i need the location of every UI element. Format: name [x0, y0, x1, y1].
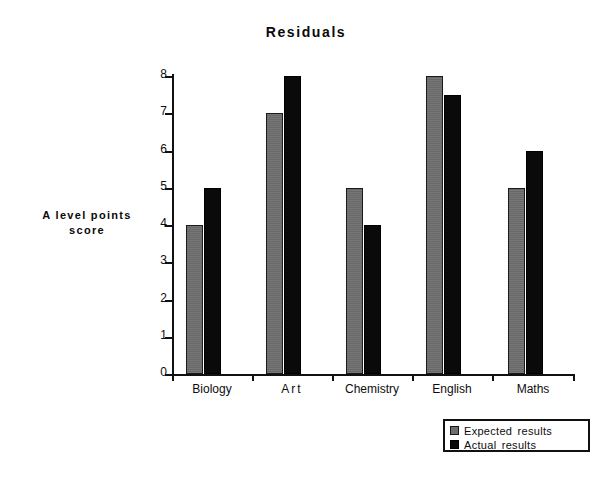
- x-tick-end: [573, 374, 575, 381]
- chart-figure: Residuals A level points score 8 7 6 5 4: [0, 0, 604, 477]
- x-axis-line: [172, 374, 575, 376]
- x-tick-start: [172, 374, 174, 381]
- bar-group-chemistry: [346, 76, 381, 374]
- y-axis-title-line-2: score: [12, 223, 162, 238]
- legend-label-actual: Actual results: [464, 439, 536, 451]
- plot-area: 8 7 6 5 4 3 2 1: [172, 76, 573, 374]
- chart-title-text: Residuals: [266, 24, 347, 40]
- y-tick-label: 7: [160, 105, 167, 117]
- bar-group-biology: [186, 76, 221, 374]
- bar-group-art: [266, 76, 301, 374]
- x-axis-label-maths: Maths: [493, 382, 573, 396]
- x-axis-label-chemistry: Chemistry: [332, 382, 412, 396]
- legend-swatch-grey-icon: [450, 426, 459, 435]
- y-tick-label: 6: [160, 143, 167, 155]
- y-tick-label: 1: [160, 329, 167, 341]
- x-tick-1: [252, 374, 254, 381]
- y-axis-title: A level points score: [12, 208, 162, 238]
- y-tick-label: 2: [160, 292, 167, 304]
- x-tick-2: [332, 374, 334, 381]
- bar-expected-chemistry[interactable]: [346, 188, 363, 374]
- bar-actual-chemistry[interactable]: [364, 225, 381, 374]
- legend-label-expected: Expected results: [464, 425, 552, 437]
- bar-group-english: [426, 76, 461, 374]
- bar-actual-english[interactable]: [444, 95, 461, 374]
- y-tick-label: 3: [160, 254, 167, 266]
- chart-title: Residuals: [0, 24, 604, 40]
- bar-expected-biology[interactable]: [186, 225, 203, 374]
- y-tick-label: 4: [160, 217, 167, 229]
- x-axis-label-art: Art: [252, 382, 332, 396]
- y-tick-label: 0: [160, 366, 167, 378]
- legend-swatch-black-icon: [450, 440, 459, 449]
- bar-group-maths: [508, 76, 543, 374]
- legend-item-expected[interactable]: Expected results: [450, 424, 584, 437]
- chart-legend: Expected results Actual results: [443, 419, 590, 452]
- x-tick-4: [492, 374, 494, 381]
- x-axis-label-biology: Biology: [172, 382, 252, 396]
- bar-expected-art[interactable]: [266, 113, 283, 374]
- legend-item-actual[interactable]: Actual results: [450, 438, 584, 451]
- bar-expected-maths[interactable]: [508, 188, 525, 374]
- x-axis-label-english: English: [412, 382, 492, 396]
- bar-expected-english[interactable]: [426, 76, 443, 374]
- bar-actual-biology[interactable]: [204, 188, 221, 374]
- bar-actual-maths[interactable]: [526, 151, 543, 375]
- y-axis-title-line-1: A level points: [42, 209, 131, 221]
- y-tick-label: 5: [160, 180, 167, 192]
- y-tick-label: 8: [160, 68, 167, 80]
- x-tick-3: [412, 374, 414, 381]
- bar-actual-art[interactable]: [284, 76, 301, 374]
